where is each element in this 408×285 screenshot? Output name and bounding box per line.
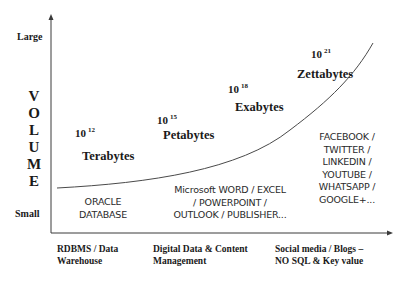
zettabytes-examples: FACEBOOK / TWITTER / LINKEDIN / YOUTUBE … [305,131,389,206]
petabytes-power: 1015 [157,113,177,126]
y-axis-title-letter: L [26,122,42,139]
x-category-social-media: Social media / Blogs – NO SQL & Key valu… [275,243,363,267]
y-axis-top-label: Large [17,31,43,42]
y-axis-title-letter: V [26,88,42,105]
terabytes-examples: ORACLE DATABASE [67,196,139,221]
x-axis-arrow-icon [387,231,393,236]
y-axis-title-letter: M [26,156,42,173]
petabytes-label: Petabytes [163,128,214,143]
y-axis-bottom-label: Small [15,208,39,219]
terabytes-power: 1012 [75,126,95,139]
petabytes-examples: Microsoft WORD / EXCEL / POWERPOINT / OU… [160,184,300,222]
x-category-rdbms: RDBMS / Data Warehouse [57,243,118,267]
terabytes-label: Terabytes [82,149,134,164]
y-axis-title-letter: O [26,105,42,122]
y-axis-arrow-icon [49,14,54,20]
zettabytes-power: 1021 [311,47,331,60]
zettabytes-label: Zettabytes [297,67,353,82]
y-axis-title: V O L U M E [26,88,42,190]
exabytes-label: Exabytes [235,100,284,115]
exabytes-power: 1018 [228,82,248,95]
y-axis-title-letter: U [26,139,42,156]
x-category-digital-data: Digital Data & Content Management [153,243,248,267]
y-axis-title-letter: E [26,173,42,190]
